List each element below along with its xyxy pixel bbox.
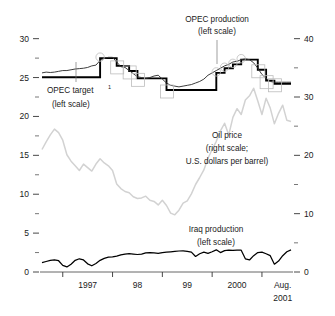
- left-tick-label: 30: [20, 34, 30, 44]
- iraq-production-label-line1: Iraq production: [189, 225, 244, 234]
- opec-production-line: [42, 57, 291, 87]
- iraq-production-label-line2: (left scale): [197, 238, 235, 247]
- left-tick-label: 15: [20, 150, 30, 160]
- left-tick-label: 20: [20, 111, 30, 121]
- right-tick-label: 20: [304, 150, 314, 160]
- x-tick-label: 1997: [78, 280, 97, 290]
- oil-price-label-line1: Oil price: [212, 131, 242, 140]
- right-axis: 010203040: [294, 34, 314, 277]
- right-tick-label: 40: [304, 34, 314, 44]
- oil-price-label-line2: (right scale;: [206, 144, 248, 153]
- opec-production-label-line1: OPEC production: [185, 15, 249, 24]
- x-axis: 199798992000Aug.2001: [40, 272, 293, 303]
- left-axis: 051015202530: [20, 34, 39, 277]
- x-end-label-year: 2001: [273, 293, 292, 303]
- x-end-label-month: Aug.: [274, 280, 292, 290]
- chart-canvas: 051015202530 010203040 199798992000Aug.2…: [0, 0, 335, 316]
- left-tick-label: 25: [20, 73, 30, 83]
- opec-production-label-line2: (left scale): [198, 27, 236, 36]
- x-tick-label: 2000: [228, 280, 247, 290]
- iraq-production-line: [42, 250, 291, 267]
- left-tick-label: 5: [24, 228, 29, 238]
- x-tick-label: 99: [183, 280, 193, 290]
- left-tick-label: 10: [20, 189, 30, 199]
- opec-target-label-line1: OPEC target: [47, 86, 94, 95]
- right-tick-label: 10: [304, 209, 314, 219]
- opec-target-footnote-marker: 1: [108, 84, 111, 90]
- right-tick-label: 30: [304, 92, 314, 102]
- left-tick-label: 0: [24, 267, 29, 277]
- opec-target-label-line2: (left scale): [52, 100, 90, 109]
- right-tick-label: 0: [304, 267, 309, 277]
- oil-price-label-line3: U.S. dollars per barrel): [186, 157, 269, 166]
- x-tick-label: 98: [133, 280, 143, 290]
- chart-annotations: OPEC production (left scale) OPEC target…: [47, 15, 268, 247]
- oil-market-chart: 051015202530 010203040 199798992000Aug.2…: [0, 0, 335, 316]
